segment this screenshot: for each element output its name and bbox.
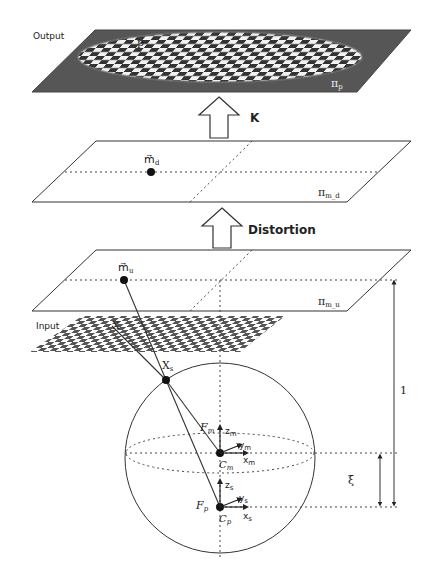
distortion-arrow <box>202 208 242 248</box>
axis-sub: m <box>248 459 255 467</box>
output-plane <box>32 28 411 92</box>
distorted-plane <box>32 141 411 202</box>
m-d-sub: d <box>155 159 159 167</box>
m-d-symbol: m⃗ <box>144 153 155 166</box>
axis-x-m: xm <box>243 456 255 467</box>
frame-m-sub: m <box>208 427 215 435</box>
center-m-sub: m <box>227 464 234 472</box>
undistorted-plane <box>32 250 411 311</box>
m-u-sub: u <box>129 267 134 275</box>
diagram-canvas <box>0 0 433 576</box>
axis-sub: s <box>248 515 252 523</box>
k-label: K <box>250 112 259 124</box>
frame-p-symbol: F <box>196 499 204 512</box>
pi-subscript: m_d <box>325 192 340 200</box>
axis-sub: m <box>244 444 251 452</box>
frame-p-sub: p <box>204 505 208 513</box>
axis-x-s: xs <box>243 512 252 523</box>
frame-p-label: Fp <box>196 500 208 513</box>
plane-pi-mu-label: πm_u <box>318 296 340 309</box>
k-arrow <box>199 97 239 138</box>
axis-sub: s <box>244 497 248 505</box>
m-u-symbol: m⃗ <box>118 261 129 274</box>
input-plane <box>30 316 285 352</box>
point-x-s <box>162 376 170 384</box>
x-s-sub: s <box>170 365 174 373</box>
point-p-text: p <box>137 36 144 49</box>
axis-y-s: ys <box>239 494 248 505</box>
axis-y-m: ym <box>239 441 251 452</box>
frame-m-symbol: F <box>200 421 208 434</box>
axis-z-m: zm <box>225 427 237 438</box>
center-m-label: Cm <box>219 460 233 472</box>
m-d-label: m⃗d <box>144 154 159 167</box>
distortion-label: Distortion <box>248 224 316 236</box>
x-s-label: Xs <box>162 360 173 373</box>
plane-pi-md-label: πm_d <box>318 187 340 200</box>
axis-z-s: zs <box>225 481 233 492</box>
point-m-u <box>120 276 128 284</box>
center-m-symbol: C <box>219 459 227 470</box>
unit-sphere <box>125 363 400 553</box>
center-p-label: Cp <box>219 514 231 526</box>
pi-subscript: p <box>338 83 342 91</box>
m-u-label: m⃗u <box>118 262 134 275</box>
input-label: Input <box>36 322 59 331</box>
center-p-symbol: C <box>219 513 227 524</box>
axis-sub: m <box>230 430 237 438</box>
unit-distance-label: 1 <box>400 385 407 396</box>
center-p-sub: p <box>227 518 231 526</box>
x-s-symbol: X <box>162 359 170 372</box>
point-p-label: p <box>137 37 144 48</box>
plane-pi-p-label: πp <box>331 78 343 91</box>
point-x-label: X <box>112 320 120 331</box>
xi-distance-label: ξ <box>348 475 354 486</box>
frame-m-label: Fm <box>200 422 214 435</box>
pi-subscript: m_u <box>325 301 340 309</box>
axis-sub: s <box>230 484 234 492</box>
output-label: Output <box>33 32 64 41</box>
